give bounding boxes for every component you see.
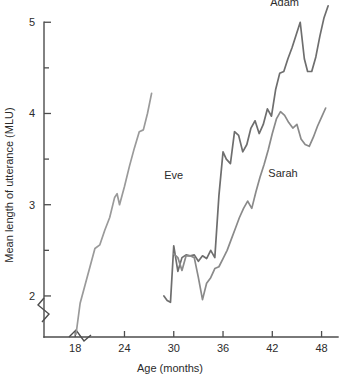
x-axis-title: Age (months) bbox=[137, 362, 203, 374]
x-tick-label-36: 36 bbox=[217, 342, 229, 354]
x-axis-break-icon bbox=[69, 330, 91, 341]
x-tick-label-18: 18 bbox=[69, 342, 81, 354]
x-tick-label-48: 48 bbox=[315, 342, 327, 354]
series-label-adam: Adam bbox=[270, 0, 299, 8]
x-tick-label-30: 30 bbox=[168, 342, 180, 354]
chart-figure: 1824303642482345 EveAdamSarah Age (month… bbox=[0, 0, 341, 382]
x-tick-label-24: 24 bbox=[118, 342, 130, 354]
x-tick-label-42: 42 bbox=[266, 342, 278, 354]
y-axis-title: Mean length of utterance (MLU) bbox=[3, 107, 15, 262]
series-line-adam bbox=[164, 6, 328, 303]
axes-layer bbox=[44, 22, 338, 337]
series-label-eve: Eve bbox=[164, 169, 183, 181]
tick-labels-layer: 1824303642482345 bbox=[29, 16, 328, 354]
mlu-line-chart: 1824303642482345 EveAdamSarah Age (month… bbox=[0, 0, 341, 382]
y-tick-label-3: 3 bbox=[29, 199, 35, 211]
series-line-eve bbox=[76, 93, 152, 334]
series-label-sarah: Sarah bbox=[268, 167, 297, 179]
axis-break-layer bbox=[38, 298, 91, 341]
y-tick-label-2: 2 bbox=[29, 290, 35, 302]
series-line-sarah bbox=[174, 108, 326, 300]
y-tick-label-5: 5 bbox=[29, 16, 35, 28]
y-tick-label-4: 4 bbox=[29, 107, 35, 119]
